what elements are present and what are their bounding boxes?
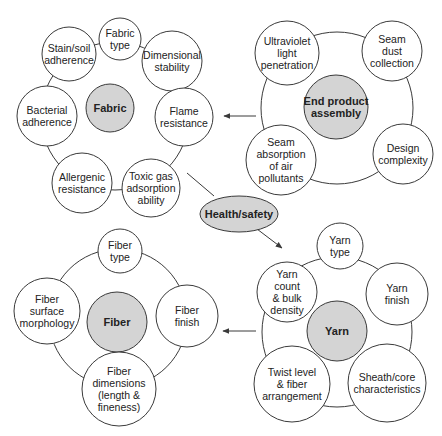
end-product-assembly-factor-label: Ultraviolet light penetration xyxy=(251,35,323,71)
yarn-factor-label: Yarn type xyxy=(313,234,367,258)
fabric-factor-label: Fabric type xyxy=(95,27,145,51)
end-product-assembly-factor-label: Seam absorption of air pollutants xyxy=(242,136,320,184)
end-product-assembly-factor-label: Seam dust collection xyxy=(358,33,426,69)
fiber-hub-label: Fiber xyxy=(82,316,152,328)
fiber-factor-label: Fiber type xyxy=(94,239,146,263)
yarn-factor-label: Yarn count & bulk density xyxy=(253,268,321,316)
fabric-factor-label: Dimensional stability xyxy=(138,49,206,73)
health-safety-label: Health/safety xyxy=(200,208,278,220)
fabric-factor-label: Stain/soil adherence xyxy=(38,42,100,66)
fiber-factor-label: Fiber finish xyxy=(152,304,222,328)
fiber-factor-label: Fiber dimensions (length & fineness) xyxy=(78,365,160,413)
fabric-factor-label: Toxic gas adsorption ability xyxy=(118,170,184,206)
end-product-assembly-hub-label: End product assembly xyxy=(299,95,373,119)
yarn-factor-label: Twist level & fiber arrangement xyxy=(250,366,334,402)
yarn-hub-label: Yarn xyxy=(302,325,372,337)
fabric-factor-label: Bacterial adherence xyxy=(13,104,81,128)
yarn-factor-label: Sheath/core characteristics xyxy=(344,371,430,395)
yarn-factor-label: Yarn finish xyxy=(362,282,432,306)
fabric-to-health-safety-connector xyxy=(187,173,214,196)
fabric-factor-label: Flame resistance xyxy=(151,105,217,129)
end-product-assembly-factor-label: Design complexity xyxy=(369,142,437,166)
health-safety-to-yarn-connector xyxy=(257,229,282,248)
fiber-factor-label: Fiber surface morphology xyxy=(10,293,84,329)
fabric-factor-label: Allergenic resistance xyxy=(48,171,116,195)
fabric-hub-label: Fabric xyxy=(81,102,139,114)
